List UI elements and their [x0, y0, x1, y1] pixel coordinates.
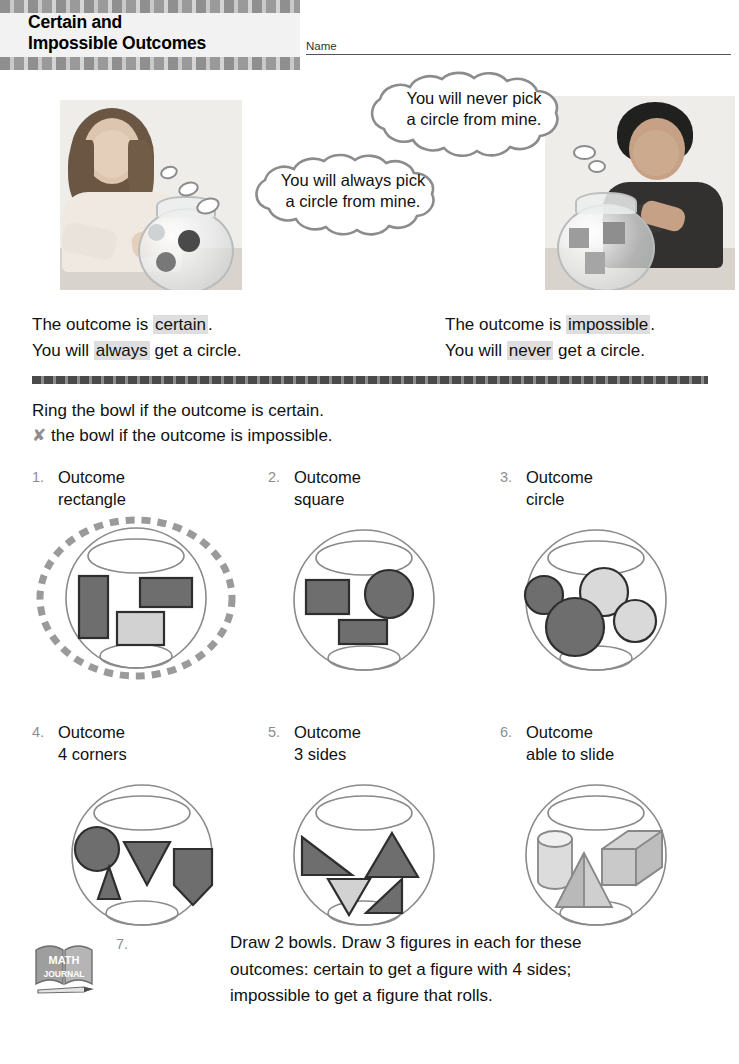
bubble-tail-dot: [573, 145, 596, 160]
stmt-text: get a circle.: [150, 341, 242, 360]
shape-rectangle: [117, 612, 164, 645]
highlight-certain: certain: [153, 315, 208, 334]
stmt-text: .: [650, 315, 655, 334]
highlight-always: always: [94, 341, 150, 360]
problem-1-outcome: rectangle: [58, 488, 262, 510]
problem-5-number: 5.: [268, 721, 280, 743]
highlight-never: never: [507, 341, 554, 360]
bubble-never-line1: You will never pick: [406, 89, 541, 107]
problem-2-number: 2.: [268, 466, 280, 488]
thought-bubble-never: You will never pick a circle from mine.: [332, 78, 602, 158]
problem-3-heading: 3. Outcome circle: [500, 466, 730, 510]
token-circle: [148, 224, 165, 241]
journal-icon-text2: JOURNAL: [43, 969, 84, 979]
name-field[interactable]: Name: [306, 40, 731, 55]
x-mark-icon: ✘: [32, 426, 46, 445]
journal-icon-text1: MATH: [49, 954, 80, 966]
statement-certain-line1: The outcome is certain.: [32, 312, 241, 338]
problem-3-bowl[interactable]: [516, 526, 730, 674]
name-write-line[interactable]: [306, 54, 731, 55]
problem-2-heading: 2. Outcome square: [268, 466, 498, 510]
token-square: [603, 222, 625, 244]
journal-number: 7.: [116, 931, 128, 958]
problem-4[interactable]: 4. Outcome 4 corners: [32, 721, 262, 929]
name-label: Name: [306, 40, 731, 53]
bubble-never-text: You will never pick a circle from mine.: [374, 88, 574, 130]
journal-line1: Draw 2 bowls. Draw 3 figures in each for…: [230, 930, 739, 957]
statement-impossible: The outcome is impossible. You will neve…: [445, 312, 655, 364]
problem-3[interactable]: 3. Outcome circle: [500, 466, 730, 674]
problem-1-bowl[interactable]: [32, 516, 262, 681]
directions: Ring the bowl if the outcome is certain.…: [32, 398, 333, 448]
token-circle: [156, 252, 176, 272]
problem-5[interactable]: 5. Outcome 3 sides: [268, 721, 498, 929]
shape-rectangle: [79, 576, 108, 638]
shape-cylinder: [538, 831, 572, 889]
problem-5-outcome: 3 sides: [294, 743, 498, 765]
problem-5-bowl[interactable]: [284, 781, 498, 929]
photo-girl-with-bowl: [60, 100, 242, 290]
banner-stripe-bottom: [0, 57, 300, 70]
token-square: [569, 228, 589, 248]
problem-1-heading: 1. Outcome rectangle: [32, 466, 262, 510]
journal-text-block: 7. Draw 2 bowls. Draw 3 figures in each …: [116, 930, 739, 1010]
math-journal-icon: MATH JOURNAL: [32, 934, 96, 996]
shape-circle: [614, 600, 656, 642]
journal-line3: impossible to get a figure that rolls.: [230, 983, 739, 1010]
bubble-never-line2: a circle from mine.: [407, 110, 542, 128]
shape-rectangle: [306, 580, 349, 614]
shape-rectangle: [140, 578, 192, 607]
problem-2-outcome: square: [294, 488, 498, 510]
bubble-always-text: You will always pick a circle from mine.: [260, 170, 446, 212]
problem-1[interactable]: 1. Outcome rectangle: [32, 466, 262, 681]
statement-impossible-line2: You will never get a circle.: [445, 338, 655, 364]
problem-2-bowl[interactable]: [284, 526, 498, 674]
thought-bubble-always: You will always pick a circle from mine.: [222, 160, 472, 240]
shape-circle: [75, 827, 119, 871]
worksheet-page: Certain and Impossible Outcomes Name: [0, 0, 739, 1064]
problem-3-outcome: circle: [526, 488, 730, 510]
problem-4-outcome: 4 corners: [58, 743, 262, 765]
problem-3-label: Outcome: [526, 468, 593, 486]
statement-certain-line2: You will always get a circle.: [32, 338, 241, 364]
bubble-always-line2: a circle from mine.: [286, 192, 421, 210]
problem-6-heading: 6. Outcome able to slide: [500, 721, 730, 765]
problem-6[interactable]: 6. Outcome able to slide: [500, 721, 730, 929]
bubble-tail-dot: [588, 160, 606, 173]
problem-2[interactable]: 2. Outcome square: [268, 466, 498, 674]
problem-4-number: 4.: [32, 721, 44, 743]
problem-1-label: Outcome: [58, 468, 125, 486]
problem-5-label: Outcome: [294, 723, 361, 741]
journal-line2: outcomes: certain to get a figure with 4…: [230, 957, 739, 984]
highlight-impossible: impossible: [566, 315, 650, 334]
stmt-text: The outcome is: [32, 315, 153, 334]
problem-6-outcome: able to slide: [526, 743, 730, 765]
problem-3-number: 3.: [500, 466, 512, 488]
directions-line2-text: the bowl if the outcome is impossible.: [51, 426, 333, 445]
problem-5-heading: 5. Outcome 3 sides: [268, 721, 498, 765]
title-banner: Certain and Impossible Outcomes: [0, 0, 300, 70]
problem-6-number: 6.: [500, 721, 512, 743]
stmt-text: .: [208, 315, 213, 334]
problem-6-label: Outcome: [526, 723, 593, 741]
stmt-text: The outcome is: [445, 315, 566, 334]
directions-line2: ✘ the bowl if the outcome is impossible.: [32, 423, 333, 448]
page-title-line1: Certain and: [28, 12, 122, 32]
section-divider: [32, 376, 708, 384]
stmt-text: get a circle.: [553, 341, 645, 360]
page-title-line2: Impossible Outcomes: [28, 33, 206, 53]
problem-1-number: 1.: [32, 466, 44, 488]
statement-impossible-line1: The outcome is impossible.: [445, 312, 655, 338]
shape-circle: [365, 570, 413, 618]
journal-lines: Draw 2 bowls. Draw 3 figures in each for…: [200, 930, 739, 1010]
directions-line1: Ring the bowl if the outcome is certain.: [32, 398, 333, 423]
shape-rectangle: [339, 620, 387, 644]
problem-6-bowl[interactable]: [516, 781, 730, 929]
statement-certain: The outcome is certain. You will always …: [32, 312, 241, 364]
boy-fishbowl-neck: [575, 192, 637, 214]
page-title: Certain and Impossible Outcomes: [28, 12, 298, 54]
problem-4-bowl[interactable]: [62, 781, 262, 929]
math-journal-task: MATH JOURNAL 7. Draw 2 bowls. Draw 3 fig…: [32, 930, 722, 1010]
stmt-text: You will: [445, 341, 507, 360]
bubble-always-line1: You will always pick: [281, 171, 425, 189]
